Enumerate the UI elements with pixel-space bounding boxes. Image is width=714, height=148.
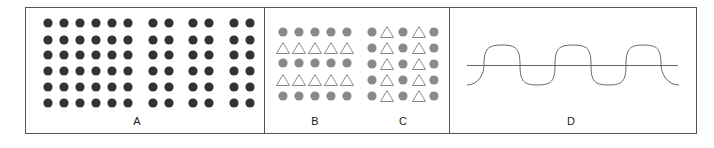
dot xyxy=(75,82,84,91)
dot xyxy=(229,82,238,91)
dot xyxy=(245,35,254,44)
dot xyxy=(188,98,197,107)
dot xyxy=(204,82,213,91)
dot xyxy=(367,43,376,52)
dot xyxy=(204,35,213,44)
dot xyxy=(43,50,52,59)
dot xyxy=(107,35,116,44)
dot xyxy=(188,50,197,59)
dot xyxy=(43,18,52,27)
dot xyxy=(398,43,407,52)
dot xyxy=(398,75,407,84)
dot xyxy=(107,18,116,27)
dot xyxy=(367,59,376,68)
dot xyxy=(398,91,407,100)
dot xyxy=(164,98,173,107)
dot xyxy=(123,50,132,59)
dot xyxy=(123,98,132,107)
dot xyxy=(367,27,376,36)
dot xyxy=(326,58,335,67)
dot xyxy=(229,98,238,107)
dot xyxy=(188,35,197,44)
dot xyxy=(164,18,173,27)
dot xyxy=(59,98,68,107)
dot xyxy=(367,91,376,100)
dot xyxy=(245,18,254,27)
dot xyxy=(164,82,173,91)
dot xyxy=(342,27,351,36)
dot xyxy=(148,35,157,44)
dot xyxy=(43,66,52,75)
dot xyxy=(59,50,68,59)
dot xyxy=(59,82,68,91)
dot xyxy=(429,91,438,100)
dot xyxy=(43,82,52,91)
figure-canvas: A B C D xyxy=(0,0,714,148)
dot xyxy=(75,18,84,27)
dot xyxy=(107,50,116,59)
dot xyxy=(148,50,157,59)
dot xyxy=(164,50,173,59)
panel-label-a: A xyxy=(133,115,141,127)
dot xyxy=(229,35,238,44)
dot xyxy=(75,50,84,59)
dot xyxy=(310,58,319,67)
dot xyxy=(123,35,132,44)
dot xyxy=(278,91,287,100)
panel-label-b: B xyxy=(311,115,318,127)
dot xyxy=(429,27,438,36)
dot xyxy=(91,18,100,27)
dot xyxy=(148,66,157,75)
dot xyxy=(310,91,319,100)
dot xyxy=(429,43,438,52)
dot xyxy=(204,50,213,59)
dot xyxy=(164,35,173,44)
dot xyxy=(148,18,157,27)
dot xyxy=(326,27,335,36)
dot xyxy=(204,18,213,27)
dot xyxy=(164,66,173,75)
dot xyxy=(326,91,335,100)
dot xyxy=(342,58,351,67)
dot xyxy=(245,82,254,91)
dot xyxy=(204,98,213,107)
dot xyxy=(188,18,197,27)
dot xyxy=(278,27,287,36)
dot xyxy=(107,82,116,91)
dot xyxy=(398,59,407,68)
dot xyxy=(59,18,68,27)
dot xyxy=(278,58,287,67)
dot xyxy=(91,50,100,59)
dot xyxy=(107,98,116,107)
dot xyxy=(429,75,438,84)
dot xyxy=(107,66,116,75)
dot xyxy=(398,27,407,36)
dot xyxy=(188,82,197,91)
dot xyxy=(123,66,132,75)
dot xyxy=(43,35,52,44)
dot xyxy=(75,98,84,107)
dot xyxy=(245,66,254,75)
dot xyxy=(229,50,238,59)
dot xyxy=(342,91,351,100)
dot xyxy=(245,50,254,59)
dot xyxy=(75,35,84,44)
dot xyxy=(91,35,100,44)
dot xyxy=(43,98,52,107)
panel-label-c: C xyxy=(399,115,407,127)
dot xyxy=(59,35,68,44)
dot xyxy=(367,75,376,84)
dot xyxy=(294,91,303,100)
dot xyxy=(59,66,68,75)
dot xyxy=(123,82,132,91)
dot xyxy=(429,59,438,68)
dot xyxy=(148,82,157,91)
dot xyxy=(91,98,100,107)
dot xyxy=(91,66,100,75)
dot xyxy=(229,18,238,27)
dot xyxy=(91,82,100,91)
dot xyxy=(294,27,303,36)
dot xyxy=(123,18,132,27)
dot xyxy=(204,66,213,75)
panel-label-d: D xyxy=(567,115,575,127)
